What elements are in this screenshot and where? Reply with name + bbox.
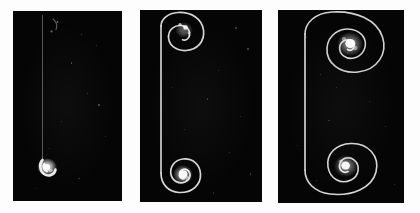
figure-root — [0, 0, 420, 213]
panel-2-canvas — [140, 10, 262, 202]
incipient-vortex-core — [37, 158, 57, 176]
panel-3-canvas — [278, 10, 404, 203]
gap-2-3 — [262, 0, 278, 213]
panel-1-canvas — [13, 11, 122, 201]
panel-2 — [140, 10, 262, 202]
panel-1 — [13, 11, 122, 201]
gap-1-2 — [122, 0, 140, 213]
panel-3 — [278, 10, 404, 203]
panel-1-background — [13, 11, 122, 201]
